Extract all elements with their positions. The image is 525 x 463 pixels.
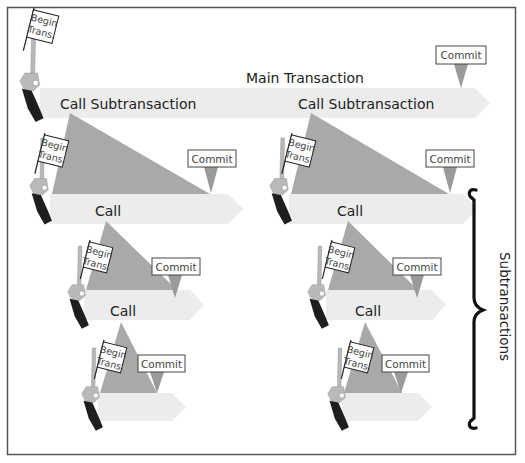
- svg-text:Commit: Commit: [429, 153, 470, 165]
- svg-text:Commit: Commit: [155, 261, 196, 273]
- call-label: Call: [95, 203, 121, 219]
- call-label: Call: [355, 303, 381, 319]
- subtransaction-arrow: [326, 290, 446, 320]
- svg-text:Commit: Commit: [141, 358, 182, 370]
- svg-text:Commit: Commit: [385, 358, 426, 370]
- svg-text:Commit: Commit: [191, 153, 232, 165]
- commit-label: Commit: [440, 49, 481, 61]
- subtransaction-arrow: [50, 194, 243, 224]
- subtransaction-arrow: [84, 290, 204, 320]
- call-subtransaction-label: Call Subtransaction: [298, 96, 434, 112]
- subtransaction-arrow: [289, 194, 477, 224]
- subtransactions-label: Subtransactions: [497, 252, 513, 361]
- svg-text:Commit: Commit: [396, 261, 437, 273]
- subtransaction-arrow: [98, 393, 186, 421]
- nested-transactions-diagram: Main Transaction Commit Begin Trans. Cal…: [0, 0, 525, 463]
- call-subtransaction-label: Call Subtransaction: [60, 96, 196, 112]
- subtransaction-arrow: [342, 393, 432, 421]
- main-transaction-label: Main Transaction: [246, 70, 364, 86]
- call-label: Call: [337, 203, 363, 219]
- call-label: Call: [110, 303, 136, 319]
